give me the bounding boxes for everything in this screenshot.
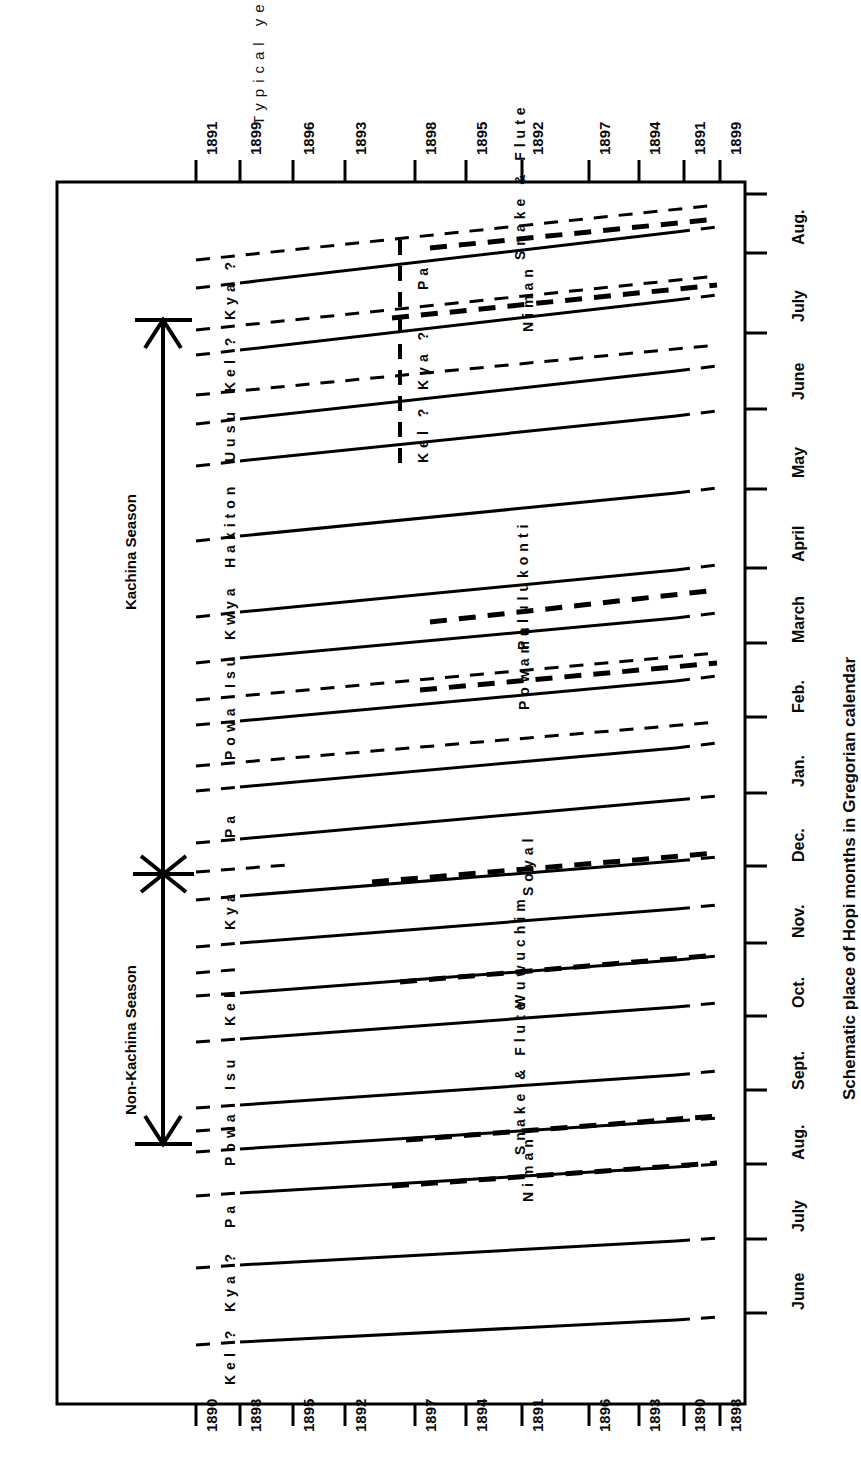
bottom-tick-label-5: 1894 bbox=[473, 1399, 490, 1432]
season-arrow-axis bbox=[133, 320, 194, 1144]
top-tick-label-4: 1898 bbox=[422, 122, 439, 155]
bottom-tick-label-3: 1892 bbox=[352, 1399, 369, 1432]
month-tick-label-5: March bbox=[790, 596, 808, 643]
month-tick-label-6: Feb. bbox=[790, 680, 808, 713]
top-tick-label-1: 1899 bbox=[247, 122, 264, 155]
top-tick-label-6: 1892 bbox=[529, 122, 546, 155]
bottom-tick-label-6: 1891 bbox=[529, 1399, 546, 1432]
plot-frame bbox=[57, 182, 745, 1404]
bottom-tick-label-0: 1890 bbox=[203, 1399, 220, 1432]
month-tick-label-12: Aug. bbox=[790, 1124, 808, 1160]
figure-canvas: Typical years in Lunar cycle bbox=[0, 0, 861, 1465]
inner-label-kel: Kel ? bbox=[415, 404, 431, 463]
ceremony-niman-upper: Niman bbox=[520, 264, 536, 332]
month-tick-label-13: July bbox=[790, 1200, 808, 1232]
month-tick-label-3: May bbox=[790, 447, 808, 478]
hopi-month-pa-mid: Pa bbox=[222, 811, 238, 838]
ceremony-snake-and-flute-upper: Snake & Flute bbox=[512, 102, 528, 260]
month-tick-label-0: Aug. bbox=[790, 209, 808, 245]
ceremony-snake-and-flute-lower: Snake & Flute bbox=[512, 997, 528, 1155]
top-tick-label-7: 1897 bbox=[596, 122, 613, 155]
hopi-month-kel-lower: Kel ? bbox=[222, 1326, 238, 1385]
ceremony-wuwuchim: Wuwuchim bbox=[512, 894, 528, 1008]
month-tick-label-14: June bbox=[790, 1273, 808, 1310]
bottom-axis-ticks bbox=[196, 1404, 720, 1426]
month-tick-label-7: Jan. bbox=[790, 755, 808, 787]
top-axis-ticks bbox=[196, 160, 720, 182]
hopi-month-powa-lower: Powa bbox=[222, 1109, 238, 1166]
inner-label-pa: Pa bbox=[415, 263, 431, 290]
top-tick-label-0: 1891 bbox=[203, 122, 220, 155]
inner-label-kya: Kya ? bbox=[415, 327, 431, 390]
month-tick-label-9: Nov. bbox=[790, 905, 808, 938]
hopi-month-kel-mid: Kel bbox=[222, 989, 238, 1026]
hopi-month-uusu: Uusu bbox=[222, 407, 238, 462]
hopi-month-powa-upper: Powa bbox=[222, 703, 238, 760]
right-axis-title: Schematic place of Hopi months in Gregor… bbox=[840, 657, 860, 1100]
hopi-month-kya-lower: Kya ? bbox=[222, 1249, 238, 1312]
bottom-tick-label-8: 1893 bbox=[646, 1399, 663, 1432]
month-tick-label-1: July bbox=[790, 290, 808, 322]
top-tick-label-5: 1895 bbox=[473, 122, 490, 155]
hopi-month-kel-upper: Kel ? bbox=[222, 333, 238, 392]
top-tick-label-2: 1896 bbox=[300, 122, 317, 155]
top-tick-label-3: 1893 bbox=[352, 122, 369, 155]
bottom-tick-label-2: 1895 bbox=[300, 1399, 317, 1432]
non-kachina-season-label: Non-Kachina Season bbox=[122, 965, 139, 1115]
ceremony-powamu: Powamu bbox=[516, 622, 532, 710]
month-tick-label-8: Dec. bbox=[790, 828, 808, 862]
hopi-month-kya-upper: Kya ? bbox=[222, 257, 238, 320]
hopi-month-band-lines bbox=[196, 205, 717, 1345]
top-tick-label-10: 1899 bbox=[727, 122, 744, 155]
month-axis-ticks bbox=[745, 194, 767, 1313]
bottom-tick-label-10: 1898 bbox=[727, 1399, 744, 1432]
bottom-tick-label-9: 1890 bbox=[691, 1399, 708, 1432]
month-tick-label-10: Oct. bbox=[790, 977, 808, 1008]
chart-graphics bbox=[0, 0, 861, 1465]
kachina-season-label: Kachina Season bbox=[122, 494, 139, 610]
month-tick-label-4: April bbox=[790, 526, 808, 562]
bottom-tick-label-4: 1897 bbox=[422, 1399, 439, 1432]
ceremony-soyal: Soyal bbox=[520, 834, 536, 896]
bottom-tick-label-1: 1898 bbox=[247, 1399, 264, 1432]
hopi-month-isu-lower: Isu bbox=[222, 1055, 238, 1090]
month-tick-label-11: Sept. bbox=[790, 1051, 808, 1090]
hopi-month-kya-mid: Kya bbox=[222, 889, 238, 930]
month-tick-label-2: June bbox=[790, 363, 808, 400]
top-tick-label-9: 1891 bbox=[691, 122, 708, 155]
ceremony-niman-lower: Niman bbox=[520, 1134, 536, 1202]
hopi-month-kwya: Kwya bbox=[222, 583, 238, 640]
top-tick-label-8: 1894 bbox=[646, 122, 663, 155]
hopi-month-pa-lower: Pa bbox=[222, 1201, 238, 1228]
hopi-month-isu-upper: Isu bbox=[222, 653, 238, 688]
bottom-tick-label-7: 1896 bbox=[596, 1399, 613, 1432]
hopi-month-hakiton: Hakiton bbox=[222, 482, 238, 568]
